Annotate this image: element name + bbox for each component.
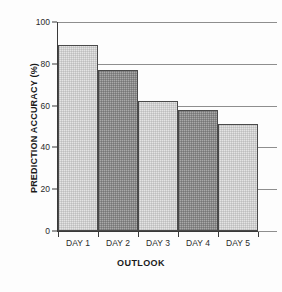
- y-tick-label-100: 100: [24, 17, 50, 27]
- y-tick-label-80: 80: [24, 59, 50, 69]
- x-tick-mark-3: [178, 232, 179, 237]
- y-tick-label-40: 40: [24, 142, 50, 152]
- x-tick-label-day-4: DAY 4: [186, 238, 210, 248]
- x-tick-label-day-1: DAY 1: [66, 238, 90, 248]
- x-tick-mark-2: [138, 232, 139, 237]
- x-axis-line: [57, 231, 258, 232]
- plot-area: [58, 22, 258, 231]
- y-tick-label-20: 20: [24, 184, 50, 194]
- bar-day-5: [218, 124, 258, 231]
- x-tick-mark-1: [98, 232, 99, 237]
- bar-day-3: [138, 101, 178, 231]
- y-axis-tick-labels: 020406080100: [22, 0, 50, 292]
- bar-day-4: [178, 110, 218, 231]
- x-axis-title: OUTLOOK: [0, 258, 282, 268]
- bar-chart-figure: PREDICTION ACCURACY (%) 020406080100 DAY…: [0, 0, 282, 292]
- bar-day-2: [98, 70, 138, 231]
- x-tick-mark-0: [58, 232, 59, 237]
- y-tick-label-60: 60: [24, 101, 50, 111]
- x-tick-mark-4: [218, 232, 219, 237]
- x-tick-label-day-5: DAY 5: [226, 238, 250, 248]
- bar-day-1: [58, 45, 98, 231]
- x-tick-label-day-2: DAY 2: [106, 238, 130, 248]
- x-tick-mark-5: [258, 232, 259, 237]
- y-tick-label-0: 0: [24, 226, 50, 236]
- x-tick-label-day-3: DAY 3: [146, 238, 170, 248]
